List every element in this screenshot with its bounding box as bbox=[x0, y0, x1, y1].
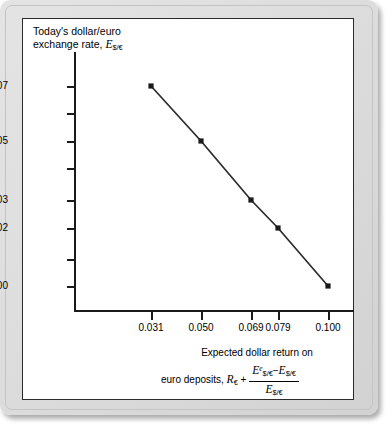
x-axis-title-lead: euro deposits, R€ + bbox=[161, 373, 246, 389]
y-axis-tick-label: 1.00 bbox=[0, 280, 8, 291]
plot-area: 1.071.051.031.021.000.0310.0500.0690.079… bbox=[23, 19, 353, 399]
numerator-term2: E$/€ bbox=[279, 364, 296, 376]
data-point-marker bbox=[275, 225, 280, 230]
denominator-subscript: $/€ bbox=[273, 388, 283, 397]
x-axis-title: Expected dollar return on euro deposits,… bbox=[161, 346, 353, 400]
numerator-term2-subscript: $/€ bbox=[286, 369, 296, 378]
y-axis-tick-label: 1.03 bbox=[0, 194, 8, 205]
y-axis-tick-label: 1.02 bbox=[0, 222, 8, 233]
data-series-layer bbox=[23, 19, 355, 401]
data-point-marker bbox=[325, 283, 330, 288]
x-axis-plus-operator: + bbox=[240, 374, 246, 385]
x-axis-title-line1: Expected dollar return on bbox=[161, 346, 353, 359]
data-point-marker bbox=[198, 138, 203, 143]
fraction-numerator: Ee$/€−E$/€ bbox=[249, 361, 298, 381]
x-axis-R-symbol: R€ bbox=[227, 373, 238, 385]
data-line bbox=[151, 86, 328, 286]
y-axis-tick-label: 1.05 bbox=[0, 135, 8, 146]
numerator-term1-subscript: $/€ bbox=[263, 369, 273, 378]
chart-panel: Today's dollar/euro exchange rate, E$/€ … bbox=[22, 18, 354, 400]
return-fraction: Ee$/€−E$/€ E$/€ bbox=[249, 361, 298, 399]
denominator-term: E$/€ bbox=[265, 383, 282, 395]
y-axis-tick-label: 1.07 bbox=[0, 80, 8, 91]
x-axis-lead-text: euro deposits, bbox=[161, 374, 224, 385]
data-point-marker bbox=[148, 83, 153, 88]
fraction-denominator: E$/€ bbox=[262, 382, 285, 399]
figure-outer-frame: Today's dollar/euro exchange rate, E$/€ … bbox=[0, 0, 378, 415]
x-axis-R-subscript: € bbox=[234, 378, 238, 387]
x-axis-title-line2: euro deposits, R€ + Ee$/€−E$/€ E$/€ bbox=[161, 362, 353, 400]
numerator-term1: Ee$/€ bbox=[252, 364, 272, 376]
data-point-marker bbox=[248, 197, 253, 202]
